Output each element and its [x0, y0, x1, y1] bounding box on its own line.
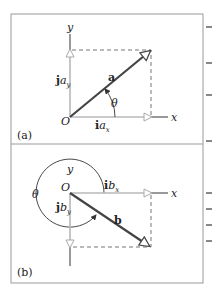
- vector-a: [70, 51, 150, 117]
- y-axis-label: y: [66, 21, 74, 34]
- x-component-label: iax: [95, 119, 110, 134]
- angle-label: θ: [32, 188, 39, 201]
- panel-label: (b): [17, 266, 33, 279]
- panel-label: (a): [17, 129, 32, 142]
- origin-label: O: [61, 115, 70, 128]
- margin-mark: [206, 26, 212, 28]
- y-component-label: jay: [55, 74, 72, 89]
- x-component-label: ibx: [104, 179, 119, 194]
- panel-b: y x O b θ jby ibx (b): [17, 159, 178, 279]
- x-axis-label: x: [171, 187, 178, 200]
- margin-mark: [206, 192, 212, 194]
- margin-mark: [206, 240, 212, 242]
- y-axis-label: y: [66, 163, 74, 176]
- margin-mark: [206, 224, 212, 226]
- margin-mark: [206, 140, 212, 142]
- figure-frame: [11, 14, 203, 283]
- x-axis-label: x: [171, 111, 178, 124]
- angle-label: θ: [111, 97, 118, 110]
- vector-components-figure: y x O a θ jay iax (a) y x O b θ jby ibx …: [0, 0, 218, 289]
- margin-mark: [206, 62, 212, 64]
- vector-a-label: a: [108, 71, 115, 84]
- panel-a: y x O a θ jay iax (a): [17, 21, 178, 142]
- origin-label: O: [61, 181, 70, 194]
- margin-mark: [206, 94, 212, 96]
- margin-mark: [206, 208, 212, 210]
- vector-b: [70, 193, 149, 246]
- vector-b-label: b: [114, 214, 122, 227]
